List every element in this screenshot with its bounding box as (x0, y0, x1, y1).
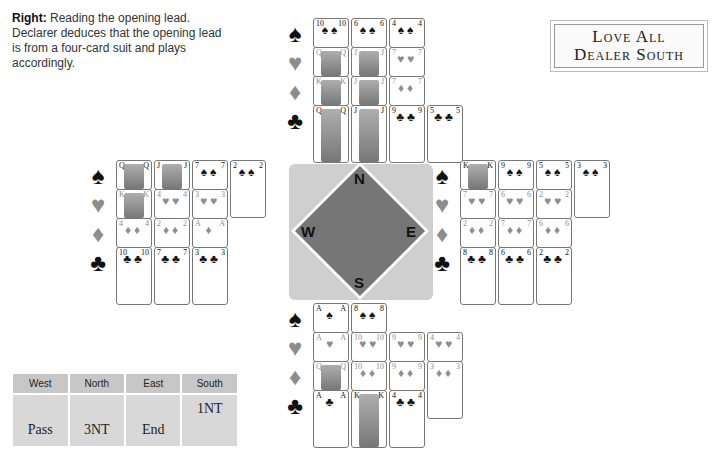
caption-lead: Right: (12, 11, 47, 25)
hearts-pip-icon: ♥♥ (537, 194, 571, 208)
bid-south: 1NT (182, 395, 237, 446)
card-spades-2: 22♠♠ (230, 160, 266, 218)
spades-pip-icon: ♠♠ (193, 165, 227, 179)
face-card-art (162, 164, 182, 189)
face-card-art (124, 164, 144, 189)
card-clubs-Q: QQ (313, 105, 349, 163)
header-west: West (13, 374, 68, 393)
card-diamonds-J: JJ (351, 76, 387, 106)
spades-pip-icon: ♠ (314, 308, 348, 322)
spades-suit-icon: ♠ (283, 22, 307, 46)
face-card-art (321, 109, 341, 162)
face-card-art (321, 51, 341, 76)
card-hearts-6: 66♥♥ (498, 189, 534, 219)
diamonds-pip-icon: ♦♦ (352, 366, 386, 380)
bid-east: End (126, 395, 180, 446)
clubs-pip-icon: ♣♣ (461, 252, 495, 266)
card-hearts-Q: QQ (313, 47, 349, 77)
clubs-pip-icon: ♣ (314, 395, 348, 409)
spades-pip-icon: ♠♠ (499, 165, 533, 179)
card-spades-5: 55♠♠ (536, 160, 572, 190)
card-clubs-2: 22♣♣ (536, 247, 572, 305)
card-clubs-6: 66♣♣ (498, 247, 534, 305)
card-spades-9: 99♠♠ (498, 160, 534, 190)
card-spades-J: JJ (154, 160, 190, 190)
header-north: North (70, 374, 125, 393)
diamonds-suit-icon: ♦ (430, 222, 454, 246)
card-clubs-10: 1010♣♣ (116, 247, 152, 305)
hearts-pip-icon: ♥ (314, 337, 348, 351)
spades-suit-icon: ♠ (86, 164, 110, 188)
card-diamonds-7: 77♦♦ (389, 76, 425, 106)
card-hearts-J: JJ (351, 47, 387, 77)
diamonds-pip-icon: ♦♦ (428, 366, 462, 380)
bidding-header-row: West North East South (13, 374, 237, 393)
face-card-art (359, 109, 379, 162)
diamonds-pip-icon: ♦♦ (499, 223, 533, 237)
card-hearts-A: AA♥ (313, 332, 349, 362)
card-clubs-9: 99♣♣ (389, 105, 425, 163)
diamonds-suit-icon: ♦ (283, 80, 307, 104)
card-diamonds-3: 33♦♦ (427, 361, 463, 419)
hearts-pip-icon: ♥♥ (155, 194, 189, 208)
card-clubs-J: JJ (351, 105, 387, 163)
hearts-pip-icon: ♥♥ (499, 194, 533, 208)
clubs-pip-icon: ♣♣ (117, 252, 151, 266)
hearts-pip-icon: ♥♥ (352, 337, 386, 351)
card-diamonds-9: 99♦♦ (389, 361, 425, 391)
card-clubs-A: AA♣ (313, 390, 349, 448)
hearts-pip-icon: ♥♥ (193, 194, 227, 208)
hearts-suit-icon: ♥ (283, 51, 307, 75)
clubs-pip-icon: ♣♣ (390, 110, 424, 124)
spades-suit-icon: ♠ (430, 164, 454, 188)
spades-pip-icon: ♠♠ (352, 308, 386, 322)
compass-north: N (354, 170, 365, 187)
bidding-row: Pass 3NT End 1NT (13, 395, 237, 446)
card-diamonds-Q: QQ (313, 361, 349, 391)
compass-south: S (354, 274, 364, 291)
card-hearts-9: 99♥♥ (389, 332, 425, 362)
spades-pip-icon: ♠♠ (575, 165, 609, 179)
caption: Right: Reading the opening lead. Declare… (12, 11, 227, 71)
header-south: South (182, 374, 237, 393)
hearts-pip-icon: ♥♥ (428, 337, 462, 351)
card-hearts-2: 22♥♥ (536, 189, 572, 219)
card-spades-K: KK (460, 160, 496, 190)
card-clubs-5: 55♣♣ (427, 105, 463, 163)
clubs-pip-icon: ♣♣ (193, 252, 227, 266)
dealer-label: Dealer South (574, 46, 684, 64)
diamonds-pip-icon: ♦♦ (117, 223, 151, 237)
clubs-pip-icon: ♣♣ (537, 252, 571, 266)
diamonds-pip-icon: ♦♦ (461, 223, 495, 237)
hearts-pip-icon: ♥♥ (461, 194, 495, 208)
clubs-suit-icon: ♣ (283, 109, 307, 133)
vulnerability-box: Love All Dealer South (554, 24, 704, 68)
card-hearts-4: 44♥♥ (427, 332, 463, 362)
spades-pip-icon: ♠♠ (231, 165, 265, 179)
card-hearts-4: 44♥♥ (154, 189, 190, 219)
spades-pip-icon: ♠♠ (390, 23, 424, 37)
diamonds-pip-icon: ♦♦ (537, 223, 571, 237)
card-spades-6: 66♠♠ (351, 18, 387, 48)
card-spades-8: 88♠♠ (351, 303, 387, 333)
card-diamonds-6: 66♦♦ (536, 218, 572, 248)
face-card-art (359, 80, 379, 105)
compass-west: W (301, 223, 315, 240)
diamonds-pip-icon: ♦ (193, 223, 227, 237)
face-card-art (359, 394, 379, 447)
card-clubs-7: 77♣♣ (154, 247, 190, 305)
diamonds-pip-icon: ♦♦ (390, 81, 424, 95)
card-diamonds-7: 77♦♦ (498, 218, 534, 248)
hearts-suit-icon: ♥ (86, 193, 110, 217)
hearts-pip-icon: ♥♥ (390, 52, 424, 66)
face-card-art (124, 193, 144, 218)
card-diamonds-10: 1010♦♦ (351, 361, 387, 391)
card-spades-4: 44♠♠ (389, 18, 425, 48)
card-hearts-3: 33♥♥ (192, 189, 228, 219)
diamonds-suit-icon: ♦ (283, 365, 307, 389)
face-card-art (321, 80, 341, 105)
card-hearts-K: KK (116, 189, 152, 219)
face-card-art (468, 164, 488, 189)
card-hearts-10: 1010♥♥ (351, 332, 387, 362)
diamonds-pip-icon: ♦♦ (155, 223, 189, 237)
